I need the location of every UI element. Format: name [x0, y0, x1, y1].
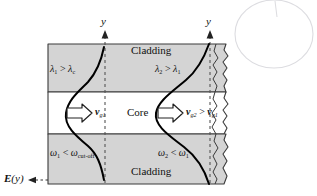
right-velocity-label: vg2 > vg1: [186, 107, 218, 118]
field-label: E(y): [4, 173, 24, 184]
axis-right-arrowhead: [207, 30, 214, 39]
gt-sign-velocity: >: [199, 106, 205, 117]
omega-ref-sub: 1: [186, 152, 189, 159]
right-frequency-label: ω2 < ω1: [158, 148, 189, 159]
lambda-c-sub: c: [72, 68, 75, 75]
lambda-left-sub: 1: [54, 68, 57, 75]
field-label-arrowhead: [28, 177, 36, 183]
gt-sign-right: >: [165, 63, 171, 74]
lt-sign-left: <: [63, 147, 69, 158]
v-sub-left: g1: [99, 111, 105, 118]
v-sub-right: g2: [190, 111, 196, 118]
hand-drawn-oval-tail: [275, 1, 277, 17]
lambda-right-sub: 2: [159, 68, 162, 75]
omega-ref-symbol: ω: [179, 147, 186, 158]
gt-sign-left: >: [60, 63, 66, 74]
omega-cutoff-symbol: ω: [71, 147, 78, 158]
y-paren: (y): [11, 172, 23, 184]
v-sub-compare: g1: [212, 111, 218, 118]
omega-symbol-left: ω: [50, 147, 57, 158]
top-cladding-label: Cladding: [131, 45, 171, 56]
left-velocity-label: vg1: [95, 107, 106, 118]
omega-right-sub: 2: [165, 152, 168, 159]
right-wavelength-label: λ2 > λ1: [155, 64, 181, 75]
axis-left-label: y: [101, 16, 106, 27]
hand-drawn-oval-annotation: [235, 0, 313, 68]
omega-left-sub: 1: [57, 152, 60, 159]
diagram-canvas: y y Cladding Core Cladding λ1 > λc λ2 > …: [0, 0, 317, 196]
lambda-ref-sub: 1: [177, 68, 180, 75]
left-frequency-label: ω1 < ωcut-off: [50, 148, 95, 159]
axis-left-arrowhead: [102, 30, 109, 39]
bottom-cladding-label: Cladding: [131, 166, 171, 177]
core-label: Core: [127, 107, 148, 118]
lt-sign-right: <: [171, 147, 177, 158]
axis-right-label: y: [206, 16, 211, 27]
omega-cutoff-sub: cut-off: [78, 152, 95, 159]
left-wavelength-label: λ1 > λc: [50, 64, 75, 75]
omega-symbol-right: ω: [158, 147, 165, 158]
